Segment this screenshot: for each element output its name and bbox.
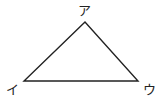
vertex-label-bottom-left: イ	[6, 82, 19, 97]
vertex-label-top: ア	[78, 3, 91, 18]
vertex-label-bottom-right: ウ	[143, 82, 156, 97]
triangle-diagram: ア イ ウ	[0, 0, 163, 101]
triangle-shape	[24, 22, 138, 81]
